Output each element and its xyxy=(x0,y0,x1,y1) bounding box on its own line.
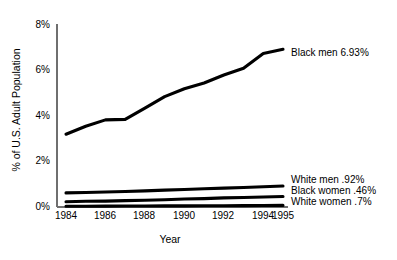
series-label-white-men: White men .92% xyxy=(291,174,364,185)
series-label-white-women: White women .7% xyxy=(291,196,372,207)
series-label-black-men: Black men 6.93% xyxy=(291,47,369,58)
series-line-white-women xyxy=(66,205,283,206)
series-line-black-men xyxy=(66,49,283,134)
x-axis-title: Year xyxy=(0,233,340,245)
series-line-white-men xyxy=(66,186,283,193)
chart-figure: % of U.S. Adult Population 8% 6% 4% 2% 0… xyxy=(0,0,397,260)
series-label-black-women: Black women .46% xyxy=(291,185,376,196)
plot-canvas xyxy=(0,0,397,260)
series-line-black-women xyxy=(66,197,283,202)
